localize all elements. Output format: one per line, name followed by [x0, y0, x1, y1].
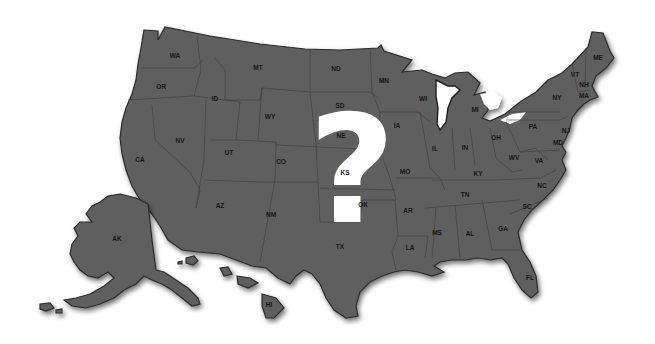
- state-label-sd: SD: [335, 102, 344, 109]
- state-label-md: MD: [553, 139, 563, 146]
- state-label-la: LA: [406, 244, 415, 251]
- state-label-ky: KY: [473, 170, 483, 177]
- state-label-nc: NC: [537, 182, 547, 189]
- state-label-wy: WY: [265, 113, 276, 120]
- state-label-nv: NV: [175, 137, 185, 144]
- state-label-ok: OK: [358, 201, 368, 208]
- state-label-ak: AK: [112, 235, 122, 242]
- state-label-sc: SC: [522, 203, 531, 210]
- state-label-ut: UT: [225, 149, 234, 156]
- state-label-nh: NH: [579, 81, 589, 88]
- state-label-mi: MI: [471, 106, 478, 113]
- state-label-tn: TN: [461, 191, 470, 198]
- state-label-hi: HI: [266, 301, 273, 308]
- state-label-in: IN: [462, 144, 469, 151]
- state-label-ne: NE: [336, 132, 346, 139]
- state-label-wi: WI: [419, 95, 427, 102]
- state-label-al: AL: [466, 230, 475, 237]
- state-label-vt: VT: [571, 71, 579, 78]
- state-label-ca: CA: [135, 156, 145, 163]
- state-label-ma: MA: [579, 92, 589, 99]
- state-label-co: CO: [276, 158, 286, 165]
- state-label-mn: MN: [379, 77, 389, 84]
- state-label-ms: MS: [432, 229, 442, 236]
- state-label-me: ME: [593, 54, 603, 61]
- state-label-pa: PA: [529, 123, 538, 130]
- us-map-graphic: ? WAORCANVIDMTWYUTCOAZNMNDSDNEKSOKTXMNIA…: [0, 0, 655, 344]
- state-label-tx: TX: [336, 243, 345, 250]
- state-label-id: ID: [212, 95, 219, 102]
- state-label-il: IL: [432, 145, 438, 152]
- us-map: ? WAORCANVIDMTWYUTCOAZNMNDSDNEKSOKTXMNIA…: [0, 0, 655, 344]
- state-label-oh: OH: [491, 134, 501, 141]
- state-label-nd: ND: [331, 65, 341, 72]
- state-label-va: VA: [535, 157, 544, 164]
- state-label-wv: WV: [509, 154, 520, 161]
- state-label-nj: NJ: [562, 127, 571, 134]
- state-label-ny: NY: [552, 94, 562, 101]
- state-label-mt: MT: [253, 64, 262, 71]
- state-label-wa: WA: [170, 52, 181, 59]
- question-mark-icon: ?: [308, 83, 395, 257]
- state-label-or: OR: [156, 83, 166, 90]
- state-label-ar: AR: [403, 207, 413, 214]
- state-label-ia: IA: [394, 122, 401, 129]
- state-label-ga: GA: [498, 225, 508, 232]
- contiguous-us: ?: [120, 27, 614, 318]
- state-label-mo: MO: [400, 168, 410, 175]
- state-label-nm: NM: [266, 211, 276, 218]
- state-label-az: AZ: [216, 202, 225, 209]
- state-label-ks: KS: [340, 169, 350, 176]
- state-label-fl: FL: [526, 274, 534, 281]
